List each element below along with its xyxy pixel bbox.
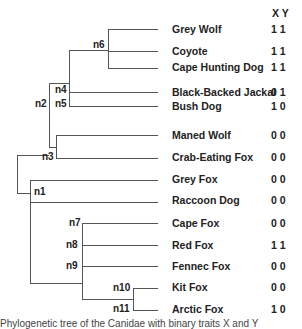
node-label: n5 — [55, 98, 67, 110]
leaf-xy-values: 1 1 — [271, 23, 286, 35]
node-label: n9 — [66, 260, 78, 272]
leaf-name: Fennec Fox — [172, 260, 230, 272]
leaf-name: Grey Fox — [172, 173, 218, 185]
node-label: n4 — [55, 84, 67, 96]
node-label: n10 — [113, 282, 130, 294]
leaf-name: Black-Backed Jackal — [172, 86, 276, 98]
figure-caption: Phylogenetic tree of the Canidae with bi… — [0, 318, 258, 329]
node-label: n8 — [66, 239, 78, 251]
leaf-xy-values: 0 0 — [271, 194, 286, 206]
leaf-xy-values: 1 0 — [271, 303, 286, 315]
leaf-xy-values: 0 1 — [271, 86, 286, 98]
leaf-name: Crab-Eating Fox — [172, 151, 253, 163]
leaf-name: Arctic Fox — [172, 303, 223, 315]
leaf-xy-values: 0 0 — [271, 217, 286, 229]
leaf-name: Cape Fox — [172, 217, 219, 229]
node-label: n11 — [113, 303, 130, 315]
leaf-name: Kit Fox — [172, 281, 208, 293]
node-label: n1 — [34, 186, 46, 198]
leaf-name: Grey Wolf — [172, 23, 221, 35]
leaf-xy-values: 1 1 — [271, 61, 286, 73]
leaf-xy-values: 0 0 — [271, 129, 286, 141]
node-label: n2 — [35, 98, 47, 110]
leaf-name: Red Fox — [172, 239, 213, 251]
leaf-xy-values: 1 1 — [271, 239, 286, 251]
leaf-xy-values: 0 0 — [271, 281, 286, 293]
leaf-name: Cape Hunting Dog — [172, 61, 264, 73]
leaf-name: Raccoon Dog — [172, 194, 240, 206]
leaf-xy-values: 0 0 — [271, 173, 286, 185]
node-label: n7 — [69, 217, 81, 229]
xy-column-header: X Y — [272, 7, 289, 19]
leaf-name: Coyote — [172, 45, 208, 57]
node-label: n6 — [93, 39, 105, 51]
leaf-name: Maned Wolf — [172, 129, 231, 141]
node-label: n3 — [42, 151, 54, 163]
leaf-xy-values: 1 1 — [271, 45, 286, 57]
leaf-xy-values: 1 0 — [271, 100, 286, 112]
leaf-xy-values: 0 0 — [271, 151, 286, 163]
leaf-xy-values: 0 0 — [271, 260, 286, 272]
leaf-name: Bush Dog — [172, 100, 222, 112]
